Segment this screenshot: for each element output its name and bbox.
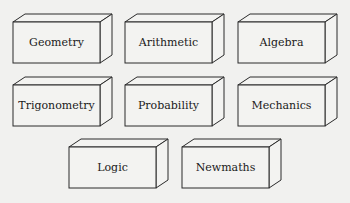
box-side-face: [212, 14, 224, 63]
box-side-face: [212, 77, 224, 126]
box-top-face: [125, 77, 224, 85]
box-side-face: [269, 139, 281, 188]
box-top-face: [69, 139, 168, 147]
box-side-face: [100, 14, 112, 63]
box-label-newmaths: Newmaths: [182, 161, 269, 175]
box-side-face: [325, 14, 337, 63]
box-label-arithmetic: Arithmetic: [125, 36, 212, 50]
box-label-mechanics: Mechanics: [238, 99, 325, 113]
box-top-face: [182, 139, 281, 147]
box-label-trigonometry: Trigonometry: [13, 99, 100, 113]
box-label-algebra: Algebra: [238, 36, 325, 50]
box-label-geometry: Geometry: [13, 36, 100, 50]
box-top-face: [13, 14, 112, 22]
box-side-face: [100, 77, 112, 126]
box-label-logic: Logic: [69, 161, 156, 175]
box-side-face: [156, 139, 168, 188]
box-top-face: [238, 14, 337, 22]
box-top-face: [13, 77, 112, 85]
box-top-face: [125, 14, 224, 22]
box-side-face: [325, 77, 337, 126]
box-top-face: [238, 77, 337, 85]
box-label-probability: Probability: [125, 99, 212, 113]
